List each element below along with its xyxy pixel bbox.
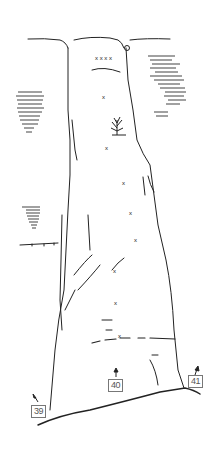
svg-text:x: x [105, 145, 108, 151]
summit-rim [28, 39, 68, 48]
route-label-40: 40 [108, 379, 123, 392]
ground-line [38, 388, 200, 425]
svg-text:x: x [113, 268, 116, 274]
svg-text:x: x [118, 333, 121, 339]
tree-icon [111, 117, 126, 135]
svg-text:x: x [102, 94, 105, 100]
svg-text:x x x x: x x x x [95, 55, 112, 61]
svg-text:x: x [122, 180, 125, 186]
route-label-39: 39 [31, 405, 46, 418]
right-wall [126, 48, 184, 388]
left-wall [50, 48, 70, 410]
svg-text:x: x [129, 210, 132, 216]
svg-text:x: x [114, 300, 117, 306]
svg-text:x: x [134, 237, 137, 243]
route-label-41: 41 [188, 375, 203, 388]
